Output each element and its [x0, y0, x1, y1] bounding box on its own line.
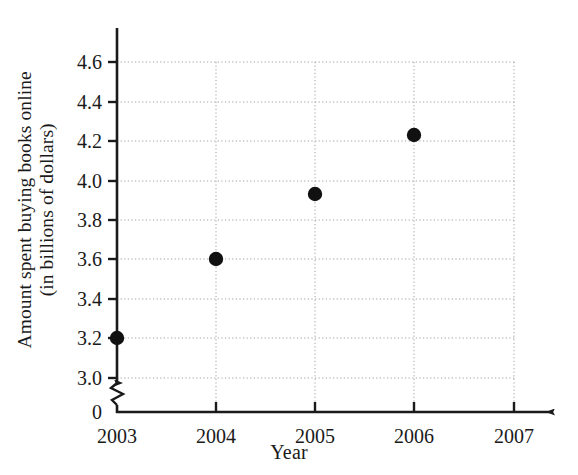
y-tick-label: 3.0 [77, 367, 102, 389]
grid-vertical [216, 62, 514, 410]
data-point [308, 187, 322, 201]
y-tick-label: 4.6 [77, 51, 102, 73]
data-point [407, 128, 421, 142]
x-axis-title: Year [0, 441, 578, 464]
data-point [209, 252, 223, 266]
axis-break-symbol [111, 383, 123, 405]
y-tick-label: 4.4 [77, 91, 102, 113]
axis-break-zero-label: 0 [92, 401, 102, 423]
y-tick-label: 3.4 [77, 288, 102, 310]
y-tick-label: 4.2 [77, 130, 102, 152]
data-points [110, 128, 421, 345]
plot-canvas: 4.6 4.4 4.2 4.0 3.8 3.6 3.4 3.2 3.0 0 20… [0, 0, 578, 475]
data-point [110, 331, 124, 345]
scatter-chart: 4.6 4.4 4.2 4.0 3.8 3.6 3.4 3.2 3.0 0 20… [0, 0, 578, 475]
y-tick-label: 3.2 [77, 327, 102, 349]
y-tick-label: 4.0 [77, 170, 102, 192]
x-tick-marks [216, 402, 514, 412]
y-tick-label: 3.6 [77, 248, 102, 270]
y-tick-label: 3.8 [77, 209, 102, 231]
grid-horizontal [117, 62, 515, 378]
y-tick-labels: 4.6 4.4 4.2 4.0 3.8 3.6 3.4 3.2 3.0 [77, 51, 102, 389]
